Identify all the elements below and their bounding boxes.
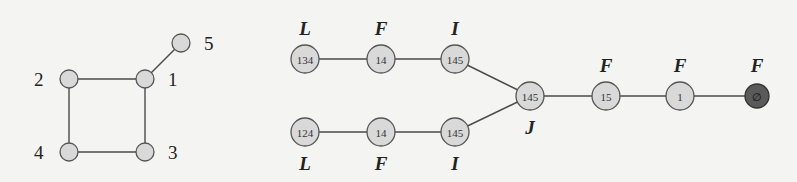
vertex-1	[136, 70, 154, 88]
tree-node-type-label: L	[298, 18, 311, 39]
graph-left-nodes: 12345	[34, 33, 214, 163]
tree-node-type-label: F	[374, 18, 388, 39]
vertex-3	[136, 143, 154, 161]
tree-node-type-label: F	[750, 55, 764, 76]
tree-node-content: 134	[297, 54, 314, 66]
tree-node-type-label: L	[298, 153, 311, 174]
tree-node-content: 14	[376, 54, 388, 66]
vertex-label-5: 5	[204, 33, 214, 54]
diagram-canvas: 12345 134L14F145I124L14F145I145J15F1F∅F	[0, 0, 797, 182]
vertex-4	[60, 143, 78, 161]
vertex-label-3: 3	[168, 142, 178, 163]
vertex-2	[60, 70, 78, 88]
tree-node-type-label: J	[524, 117, 535, 138]
tree-node-content: 1	[677, 91, 683, 103]
tree-node-type-label: F	[673, 55, 687, 76]
tree-decomposition-graph: 134L14F145I124L14F145I145J15F1F∅F	[291, 18, 769, 174]
graph-left-edges	[69, 43, 181, 152]
tree-node-type-label: I	[450, 18, 459, 39]
vertex-label-4: 4	[34, 142, 44, 163]
tree-node-content: 14	[376, 127, 388, 139]
tree-node-content: 15	[601, 91, 613, 103]
tree-node-type-label: F	[374, 153, 388, 174]
vertex-label-2: 2	[34, 69, 44, 90]
tree-node-content: 145	[522, 91, 539, 103]
vertex-label-1: 1	[168, 69, 178, 90]
tree-node-type-label: F	[599, 55, 613, 76]
graph-left: 12345	[34, 33, 214, 163]
tree-node-content: 145	[447, 127, 464, 139]
vertex-5	[172, 34, 190, 52]
tree-node-content: 124	[297, 127, 314, 139]
tree-node-content: 145	[447, 54, 464, 66]
tree-node-content: ∅	[752, 91, 762, 103]
tree-node-type-label: I	[450, 153, 459, 174]
